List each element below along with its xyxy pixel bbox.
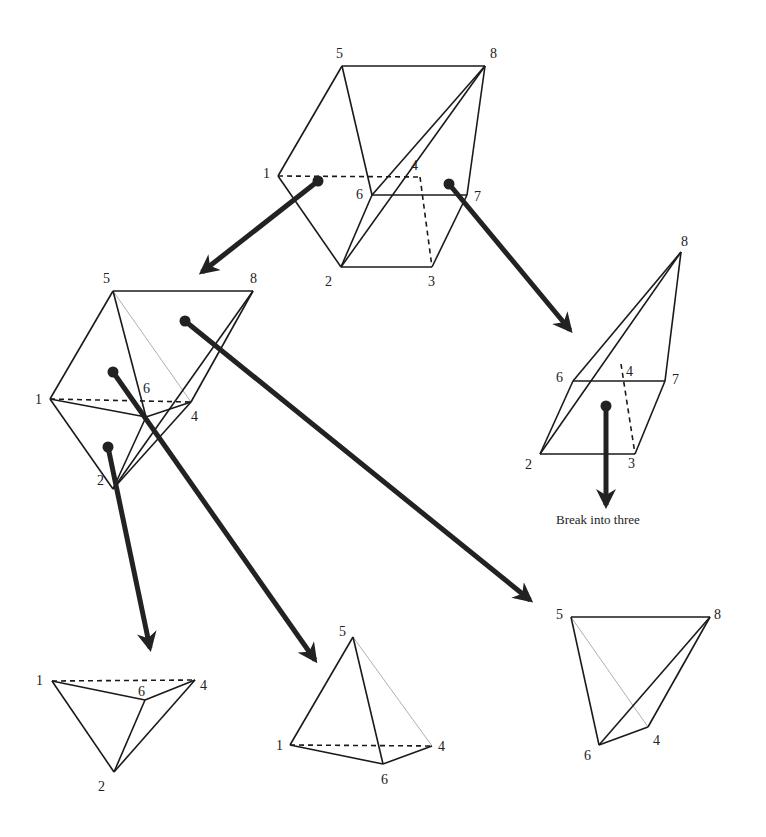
vertex-label-6: 6 xyxy=(143,381,150,396)
arrows-layer xyxy=(103,176,612,661)
edge-8-7 xyxy=(467,66,485,195)
vertex-label-4: 4 xyxy=(411,158,418,173)
edge-1-6 xyxy=(52,681,145,700)
dashed-edge-1-4 xyxy=(278,176,420,177)
vertex-label-1: 1 xyxy=(263,166,270,181)
vertex-label-4: 4 xyxy=(191,409,198,424)
vertex-label-6: 6 xyxy=(381,772,388,787)
edge-6-4 xyxy=(383,746,432,764)
vertex-label-2: 2 xyxy=(325,274,332,289)
vertex-label-6: 6 xyxy=(584,748,591,763)
vertex-label-1: 1 xyxy=(276,738,283,753)
vertex-label-1: 1 xyxy=(36,673,43,688)
vertex-label-4: 4 xyxy=(438,739,445,754)
vertex-label-2: 2 xyxy=(97,473,104,488)
vertex-label-4: 4 xyxy=(200,678,207,693)
vertex-label-4: 4 xyxy=(653,733,660,748)
arrow-left-to-1564 xyxy=(108,367,316,661)
edge-5-1 xyxy=(50,291,113,399)
edge-6-2 xyxy=(114,700,145,772)
arrow-shaft xyxy=(108,447,150,648)
edge-5-1 xyxy=(278,66,342,176)
vertex-label-8: 8 xyxy=(250,271,257,286)
dashed-edge-1-4 xyxy=(52,680,195,681)
vertex-label-1: 1 xyxy=(35,392,42,407)
arrow-right-break xyxy=(601,401,612,506)
arrow-shaft xyxy=(185,321,530,600)
vertex-label-7: 7 xyxy=(474,189,481,204)
dashed-edge-1-4 xyxy=(290,745,432,746)
vertex-label-3: 3 xyxy=(428,274,435,289)
arrow-hex-to-right xyxy=(444,179,571,331)
arrow-shaft xyxy=(449,184,570,330)
vertex-label-5: 5 xyxy=(339,624,346,639)
shape-tetra-1564: 1456 xyxy=(276,624,445,787)
vertex-label-5: 5 xyxy=(556,607,563,622)
vertex-label-5: 5 xyxy=(103,271,110,286)
edge-7-3 xyxy=(635,381,665,454)
vertex-label-6: 6 xyxy=(356,187,363,202)
arrow-left-to-5864 xyxy=(180,316,531,601)
edge-1-2 xyxy=(52,681,114,772)
edge-5-6 xyxy=(342,66,372,195)
vertex-label-8: 8 xyxy=(681,234,688,249)
caption-break-into-three: Break into three xyxy=(556,512,640,527)
shape-hexahedron: 12345678 xyxy=(263,46,497,289)
vertex-label-2: 2 xyxy=(525,457,532,472)
edge-8-4 xyxy=(648,617,710,727)
edge-6-2 xyxy=(540,381,573,454)
arrow-shaft xyxy=(202,181,318,272)
shapes-layer: 12345678124568234678124614564568 xyxy=(35,46,721,794)
hidden-edge-5-4 xyxy=(353,637,432,746)
edge-8-4 xyxy=(191,291,253,402)
vertex-label-8: 8 xyxy=(490,46,497,61)
shape-tetra-1246: 1246 xyxy=(36,673,207,794)
edge-4-2 xyxy=(114,680,195,772)
vertex-label-6: 6 xyxy=(556,370,563,385)
edge-6-2 xyxy=(113,417,146,489)
vertex-label-4: 4 xyxy=(626,364,633,379)
dashed-edge-4-3 xyxy=(420,177,432,267)
edge-5-1 xyxy=(290,637,353,745)
dashed-edge-1-4 xyxy=(50,399,191,402)
edge-7-3 xyxy=(432,195,467,267)
vertex-label-5: 5 xyxy=(336,46,343,61)
shape-left-wedge: 124568 xyxy=(35,271,257,489)
edge-6-4 xyxy=(145,680,195,700)
vertex-label-7: 7 xyxy=(672,372,679,387)
vertex-label-8: 8 xyxy=(714,607,721,622)
edge-1-6 xyxy=(290,745,383,764)
vertex-label-2: 2 xyxy=(98,779,105,794)
edge-8-2 xyxy=(540,252,681,454)
diagram-canvas: 12345678124568234678124614564568 Break i… xyxy=(0,0,766,837)
vertex-label-6: 6 xyxy=(138,684,145,699)
edge-8-6 xyxy=(372,66,485,195)
arrow-left-to-1246 xyxy=(103,442,151,649)
shape-tetra-5864: 4568 xyxy=(556,607,721,763)
arrow-hex-to-left xyxy=(202,176,324,273)
vertex-label-3: 3 xyxy=(628,456,635,471)
edge-8-6 xyxy=(573,252,681,381)
edge-5-6 xyxy=(571,617,599,745)
